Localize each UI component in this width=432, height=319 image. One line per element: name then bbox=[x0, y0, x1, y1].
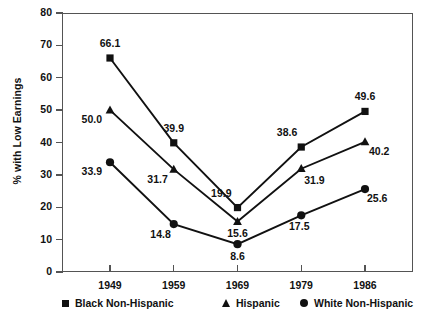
data-label: 33.9 bbox=[42, 165, 102, 177]
data-label: 49.6 bbox=[335, 90, 395, 102]
data-label: 15.6 bbox=[208, 227, 268, 239]
triangle-icon bbox=[222, 299, 230, 307]
legend-item-white-non-hispanic[interactable]: White Non-Hispanic bbox=[300, 296, 413, 310]
legend-label: White Non-Hispanic bbox=[314, 297, 413, 309]
data-label: 14.8 bbox=[111, 228, 171, 240]
x-tick-mark bbox=[173, 265, 174, 272]
x-tick-mark bbox=[301, 265, 302, 272]
x-tick-label: 1979 bbox=[271, 279, 331, 291]
y-tick-label: 0 bbox=[16, 265, 52, 277]
x-tick-label: 1959 bbox=[144, 279, 204, 291]
data-label: 38.6 bbox=[237, 126, 297, 138]
data-label: 31.7 bbox=[108, 173, 168, 185]
legend-label: Black Non-Hispanic bbox=[75, 297, 174, 309]
y-tick-label: 40 bbox=[16, 136, 52, 148]
data-label: 31.9 bbox=[304, 174, 324, 186]
data-label: 50.0 bbox=[42, 113, 102, 125]
x-tick-label: 1969 bbox=[208, 279, 268, 291]
x-tick-label: 1986 bbox=[335, 279, 395, 291]
data-label: 19.9 bbox=[172, 187, 232, 199]
legend-item-hispanic[interactable]: Hispanic bbox=[222, 296, 280, 310]
y-tick-label: 80 bbox=[16, 6, 52, 18]
legend-item-black-non-hispanic[interactable]: Black Non-Hispanic bbox=[62, 296, 174, 310]
circle-icon bbox=[300, 299, 308, 307]
square-icon bbox=[62, 300, 69, 307]
y-tick-label: 70 bbox=[16, 38, 52, 50]
x-tick-mark bbox=[364, 265, 365, 272]
y-tick-label: 20 bbox=[16, 200, 52, 212]
data-label: 25.6 bbox=[367, 192, 387, 204]
y-tick-label: 10 bbox=[16, 233, 52, 245]
data-label: 66.1 bbox=[80, 37, 140, 49]
data-label: 39.9 bbox=[144, 122, 204, 134]
data-label: 8.6 bbox=[208, 250, 268, 262]
legend-label: Hispanic bbox=[236, 297, 280, 309]
x-tick-mark bbox=[237, 265, 238, 272]
x-tick-mark bbox=[109, 265, 110, 272]
data-label: 40.2 bbox=[369, 145, 389, 157]
line-chart: % with Low Earnings 01020304050607080 19… bbox=[0, 0, 432, 319]
chart-legend: Black Non-HispanicHispanicWhite Non-Hisp… bbox=[0, 296, 432, 312]
data-label: 17.5 bbox=[269, 220, 329, 232]
y-tick-label: 60 bbox=[16, 71, 52, 83]
x-tick-label: 1949 bbox=[80, 279, 140, 291]
